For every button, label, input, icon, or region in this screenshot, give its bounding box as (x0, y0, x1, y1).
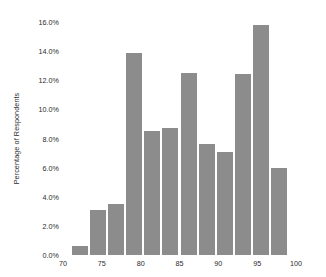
y-axis-title-text: Percentage of Respondents (13, 93, 22, 185)
y-tick-label: 12.0% (39, 76, 59, 85)
y-tick-label: 0.0% (43, 251, 59, 260)
histogram-bar (198, 144, 216, 255)
y-tick-label: 2.0% (43, 221, 59, 230)
y-tick-label: 4.0% (43, 192, 59, 201)
histogram-bar (216, 152, 234, 255)
histogram-bar (180, 73, 198, 255)
histogram-bar (270, 168, 288, 255)
histogram-bar (107, 204, 125, 255)
x-tick-label: 100 (290, 259, 302, 268)
x-tick-label: 85 (176, 259, 184, 268)
y-tick-label: 14.0% (39, 47, 59, 56)
y-tick-label: 16.0% (39, 18, 59, 27)
histogram-bar (89, 210, 107, 255)
y-tick-label: 8.0% (43, 134, 59, 143)
y-tick-label: 10.0% (39, 105, 59, 114)
histogram-bar (161, 128, 179, 255)
x-tick-label: 90 (214, 259, 222, 268)
histogram-bar (252, 25, 270, 255)
histogram-bar (71, 246, 89, 255)
histogram-bar (125, 53, 143, 255)
x-tick-label: 80 (137, 259, 145, 268)
histogram-figure: Percentage of Respondents 0.0%2.0%4.0%6.… (0, 0, 326, 277)
y-axis-title: Percentage of Respondents (10, 0, 24, 277)
y-tick-label: 6.0% (43, 163, 59, 172)
histogram-bar (234, 74, 252, 255)
x-tick-label: 75 (98, 259, 106, 268)
x-tick-label: 70 (59, 259, 67, 268)
histogram-bar (143, 131, 161, 255)
x-tick-label: 95 (253, 259, 261, 268)
plot-area: 0.0%2.0%4.0%6.0%8.0%10.0%12.0%14.0%16.0%… (63, 22, 296, 255)
